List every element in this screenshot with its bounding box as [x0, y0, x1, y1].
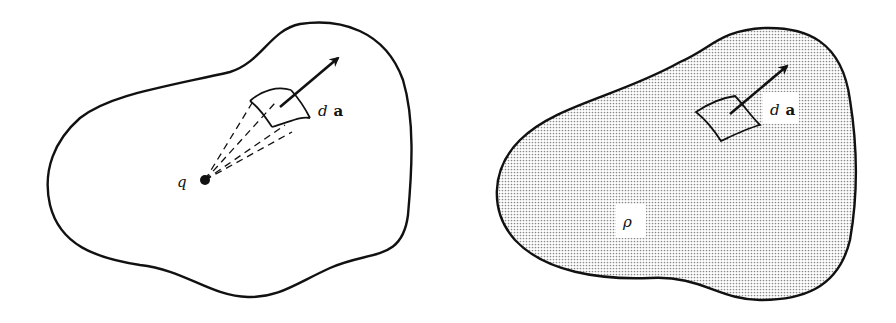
- left-panel: q d a: [48, 23, 412, 297]
- point-charge-dot: [200, 175, 210, 185]
- normal-vector-arrow: [280, 58, 338, 107]
- closed-surface-outline: [48, 23, 412, 297]
- charge-label: q: [177, 173, 187, 191]
- area-element-patch: [250, 88, 310, 127]
- density-label: ρ: [622, 213, 632, 231]
- right-panel: ρ d a: [497, 28, 856, 300]
- figure-canvas: q d a ρ d a: [0, 0, 896, 323]
- charge-distribution-region: [497, 28, 856, 300]
- solid-angle-cone: [205, 103, 292, 180]
- area-element-label: d a: [318, 102, 344, 120]
- area-element-label: d a: [770, 101, 796, 119]
